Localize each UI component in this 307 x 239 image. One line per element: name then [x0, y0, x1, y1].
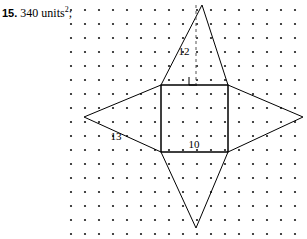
grid-dot [210, 107, 212, 109]
grid-dot [238, 9, 240, 11]
grid-dot [238, 163, 240, 165]
grid-dot [210, 149, 212, 151]
grid-dot [168, 219, 170, 221]
grid-dot [182, 79, 184, 81]
grid-dot [280, 121, 282, 123]
grid-dot [210, 177, 212, 179]
grid-dot [280, 79, 282, 81]
grid-dot [182, 37, 184, 39]
grid-dot [196, 177, 198, 179]
grid-dot [126, 65, 128, 67]
grid-dot [252, 9, 254, 11]
grid-dot [294, 149, 296, 151]
grid-dot [154, 51, 156, 53]
grid-dot [252, 219, 254, 221]
grid-dot [84, 135, 86, 137]
grid-dot [154, 163, 156, 165]
grid-dot [70, 219, 72, 221]
grid-dot [196, 135, 198, 137]
grid-dot [280, 9, 282, 11]
grid-dot [182, 9, 184, 11]
grid-dot [126, 177, 128, 179]
figure-svg: 12 10 13 [60, 0, 307, 239]
grid-dot [70, 149, 72, 151]
grid-dot [224, 191, 226, 193]
grid-dot [182, 163, 184, 165]
grid-dot [168, 107, 170, 109]
grid-dot [70, 93, 72, 95]
grid-dot [70, 205, 72, 207]
grid-dot [280, 149, 282, 151]
grid-dot [98, 219, 100, 221]
grid-dot [210, 65, 212, 67]
grid-dot [98, 191, 100, 193]
grid-dot [98, 135, 100, 137]
grid-dot [140, 163, 142, 165]
grid-dot [252, 135, 254, 137]
grid-dot [98, 233, 100, 235]
grid-dot [84, 219, 86, 221]
grid-dot [182, 177, 184, 179]
grid-dot [266, 233, 268, 235]
grid-dot [280, 219, 282, 221]
grid-dot [126, 219, 128, 221]
grid-dot [140, 177, 142, 179]
grid-dot [126, 93, 128, 95]
grid-dot [266, 9, 268, 11]
grid-dot [168, 205, 170, 207]
grid-dot [238, 205, 240, 207]
grid-dot [196, 9, 198, 11]
grid-dot [126, 121, 128, 123]
grid-dot [224, 121, 226, 123]
grid-dot [266, 163, 268, 165]
grid-dot [238, 65, 240, 67]
grid-dot [294, 219, 296, 221]
grid-dot [252, 79, 254, 81]
grid-dot [98, 149, 100, 151]
grid-dot [280, 65, 282, 67]
grid-dot [168, 9, 170, 11]
grid-dot [84, 23, 86, 25]
grid-dot [238, 23, 240, 25]
grid-dot [238, 51, 240, 53]
grid-dot [112, 37, 114, 39]
grid-dot [182, 23, 184, 25]
grid-dot [98, 177, 100, 179]
grid-dot [168, 191, 170, 193]
grid-dot [224, 149, 226, 151]
grid-dot [294, 65, 296, 67]
grid-dot [154, 191, 156, 193]
grid-dot [112, 93, 114, 95]
grid-dot [140, 37, 142, 39]
grid-dot [224, 37, 226, 39]
grid-dot [252, 93, 254, 95]
grid-dot [252, 177, 254, 179]
grid-dot [70, 65, 72, 67]
grid-dot [294, 205, 296, 207]
grid-dot [252, 149, 254, 151]
grid-dot [182, 191, 184, 193]
grid-dot [168, 37, 170, 39]
grid-dot [168, 65, 170, 67]
grid-dot [154, 107, 156, 109]
grid-dot [224, 23, 226, 25]
grid-dot [84, 233, 86, 235]
grid-dot [140, 219, 142, 221]
grid-dot [210, 79, 212, 81]
grid-dot [84, 149, 86, 151]
grid-dot [84, 9, 86, 11]
grid-dot [252, 163, 254, 165]
grid-dot [252, 233, 254, 235]
grid-dot [112, 23, 114, 25]
grid-dot [140, 107, 142, 109]
grid-dot [280, 51, 282, 53]
grid-dot [154, 219, 156, 221]
grid-dot [140, 205, 142, 207]
grid-dot [196, 51, 198, 53]
grid-dot [294, 51, 296, 53]
grid-dot [84, 205, 86, 207]
grid-dot [84, 191, 86, 193]
grid-dot [84, 51, 86, 53]
grid-dot [70, 107, 72, 109]
grid-dot [112, 121, 114, 123]
